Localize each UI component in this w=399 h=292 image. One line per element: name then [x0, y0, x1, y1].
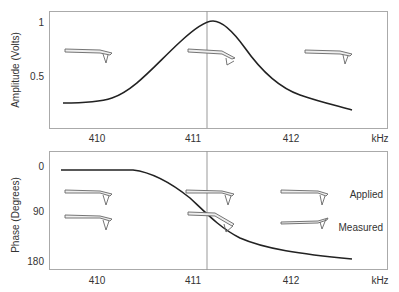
cantilever-measured-icon: [281, 218, 328, 229]
x-unit: kHz: [371, 275, 388, 286]
y-tick: 180: [27, 256, 44, 267]
amplitude-plot-frame: [50, 12, 388, 129]
figure: Amplitude (Volts) 1 0.5 410 411 412 kHz …: [0, 0, 399, 292]
cantilever-icon: [305, 50, 352, 64]
x-tick: 410: [89, 275, 106, 286]
legend-applied: Applied: [350, 189, 383, 200]
legend-measured: Measured: [339, 222, 383, 233]
cantilever-icon: [188, 49, 235, 65]
x-tick: 412: [283, 275, 300, 286]
cantilever-measured-icon: [188, 212, 234, 232]
y-tick: 1: [38, 17, 44, 28]
x-tick: 411: [185, 275, 201, 286]
cantilever-icon: [65, 49, 112, 63]
cantilever-applied-icon: [281, 190, 328, 205]
y-tick: 0.5: [30, 71, 44, 82]
x-tick: 412: [283, 133, 300, 144]
cantilever-measured-icon: [65, 215, 112, 230]
x-tick: 410: [89, 133, 106, 144]
x-unit: kHz: [371, 133, 388, 144]
cantilever-applied-icon: [65, 190, 112, 205]
x-tick: 411: [185, 133, 201, 144]
y-axis-title: Phase (Degrees): [10, 177, 21, 253]
y-tick: 0: [38, 161, 44, 172]
y-tick: 90: [33, 206, 45, 217]
y-axis-title: Amplitude (Volts): [10, 32, 21, 108]
cantilever-applied-icon: [186, 190, 234, 205]
